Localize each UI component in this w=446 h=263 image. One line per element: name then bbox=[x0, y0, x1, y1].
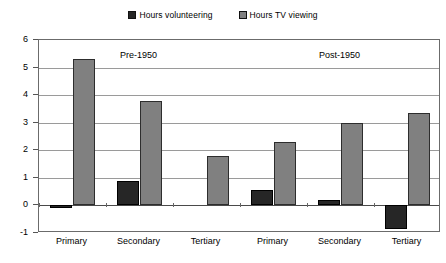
y-axis-tick-label: 1 bbox=[23, 172, 28, 182]
y-axis-tick-label: 2 bbox=[23, 144, 28, 154]
x-axis-category-label: Tertiary bbox=[191, 236, 221, 247]
bar-chart: Hours volunteering Hours TV viewing -101… bbox=[0, 0, 446, 263]
x-axis-ticks bbox=[39, 40, 439, 231]
x-axis-tick bbox=[307, 203, 308, 207]
y-axis-tick bbox=[33, 232, 38, 233]
legend-item-tv-viewing: Hours TV viewing bbox=[239, 10, 318, 20]
x-axis-category-label: Secondary bbox=[117, 236, 160, 247]
legend-label-tv-viewing: Hours TV viewing bbox=[250, 10, 318, 20]
legend-item-volunteering: Hours volunteering bbox=[128, 10, 212, 20]
x-axis-tick bbox=[173, 203, 174, 207]
y-axis-tick-label: 0 bbox=[23, 199, 28, 209]
y-axis-tick-label: 3 bbox=[23, 117, 28, 127]
x-axis-tick bbox=[106, 203, 107, 207]
y-axis-tick-label: 5 bbox=[23, 62, 28, 72]
x-axis-tick bbox=[240, 203, 241, 207]
x-axis-tick bbox=[39, 203, 40, 207]
x-axis-labels: PrimarySecondaryTertiaryPrimarySecondary… bbox=[38, 236, 440, 252]
x-axis-category-label: Secondary bbox=[318, 236, 361, 247]
chart-legend: Hours volunteering Hours TV viewing bbox=[0, 5, 446, 25]
y-axis-tick-label: 4 bbox=[23, 89, 28, 99]
y-axis-labels: -10123456 bbox=[0, 39, 34, 232]
x-axis-tick bbox=[374, 203, 375, 207]
annotation-pre-1950: Pre-1950 bbox=[120, 50, 157, 61]
x-axis-category-label: Primary bbox=[257, 236, 288, 247]
y-axis-tick-label: -1 bbox=[20, 227, 28, 237]
legend-label-volunteering: Hours volunteering bbox=[139, 10, 212, 20]
legend-swatch-tv-viewing bbox=[239, 11, 247, 19]
annotation-post-1950: Post-1950 bbox=[319, 50, 360, 61]
x-axis-category-label: Primary bbox=[56, 236, 87, 247]
legend-swatch-volunteering bbox=[128, 11, 136, 19]
y-axis-tick-label: 6 bbox=[23, 34, 28, 44]
plot-area bbox=[38, 39, 440, 232]
x-axis-category-label: Tertiary bbox=[392, 236, 422, 247]
